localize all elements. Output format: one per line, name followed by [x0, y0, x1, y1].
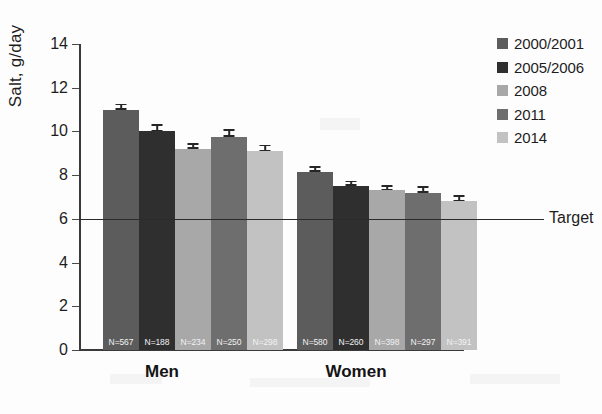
- y-axis-title: Salt, g/day: [6, 0, 32, 146]
- legend-label: 2005/2006: [514, 59, 584, 76]
- legend-swatch-icon: [497, 132, 508, 143]
- y-tick-label-4: 4: [32, 255, 68, 271]
- error-bar-cap: [310, 170, 321, 172]
- y-tick-label-12: 12: [32, 80, 68, 96]
- legend: 2000/20012005/2006200820112014: [497, 32, 584, 150]
- error-bar-cap: [188, 147, 199, 149]
- legend-label: 2011: [514, 106, 546, 123]
- y-tick-label-0: 0: [32, 342, 68, 358]
- bar-group-men: N=567N=188N=234N=250N=298: [103, 44, 283, 350]
- error-bar-cap: [116, 104, 127, 106]
- bar-women-2008[interactable]: N=398: [369, 190, 405, 350]
- error-bar-cap: [418, 191, 429, 193]
- bar-fill: [175, 149, 211, 350]
- category-label-women: Women: [296, 362, 416, 382]
- error-bar-cap: [382, 185, 393, 187]
- error-bar-cap: [188, 143, 199, 145]
- error-bar-cap: [152, 130, 163, 132]
- legend-label: 2008: [514, 82, 547, 99]
- error-bar-cap: [382, 189, 393, 191]
- error-bar-cap: [346, 184, 357, 186]
- bar-fill: [405, 193, 441, 350]
- legend-swatch-icon: [497, 85, 508, 96]
- legend-item-2008[interactable]: 2008: [497, 79, 584, 103]
- bar-fill: [441, 201, 477, 350]
- bar-fill: [297, 172, 333, 350]
- sample-size-label: N=391: [438, 337, 480, 347]
- error-bar-cap: [152, 124, 163, 126]
- error-bar-cap: [310, 166, 321, 168]
- target-label: Target: [549, 209, 593, 227]
- error-bar-cap: [116, 108, 127, 110]
- y-tick-label-2: 2: [32, 298, 68, 314]
- bar-men-2014[interactable]: N=298: [247, 151, 283, 350]
- error-bar-cap: [346, 181, 357, 183]
- legend-swatch-icon: [497, 109, 508, 120]
- legend-item-2014[interactable]: 2014: [497, 126, 584, 150]
- bar-fill: [333, 186, 369, 350]
- salt-intake-bar-chart: Salt, g/day 14121086420 N=567N=188N=234N…: [0, 0, 602, 414]
- bar-women-2000-2001[interactable]: N=580: [297, 172, 333, 350]
- error-bar-cap: [224, 129, 235, 131]
- bar-fill: [247, 151, 283, 350]
- bar-women-2005-2006[interactable]: N=260: [333, 186, 369, 350]
- legend-item-2011[interactable]: 2011: [497, 103, 584, 127]
- bar-men-2011[interactable]: N=250: [211, 137, 247, 350]
- target-reference-line: [79, 219, 544, 221]
- error-bar-cap: [260, 145, 271, 147]
- bar-women-2014[interactable]: N=391: [441, 201, 477, 350]
- bar-fill: [139, 131, 175, 350]
- bar-fill: [103, 110, 139, 350]
- error-bar-cap: [418, 186, 429, 188]
- legend-swatch-icon: [497, 38, 508, 49]
- error-bar-cap: [454, 195, 465, 197]
- scan-artifact: [470, 374, 560, 384]
- legend-item-2000-2001[interactable]: 2000/2001: [497, 32, 584, 56]
- bar-men-2000-2001[interactable]: N=567: [103, 110, 139, 350]
- y-tick-label-6: 6: [32, 211, 68, 227]
- error-bar-cap: [454, 200, 465, 202]
- error-bar-cap: [260, 150, 271, 152]
- plot-area: N=567N=188N=234N=250N=298N=580N=260N=398…: [81, 44, 464, 350]
- y-tick-label-10: 10: [32, 123, 68, 139]
- y-tick-label-8: 8: [32, 167, 68, 183]
- bar-men-2005-2006[interactable]: N=188: [139, 131, 175, 350]
- legend-swatch-icon: [497, 62, 508, 73]
- bar-fill: [211, 137, 247, 350]
- y-tick-label-14: 14: [32, 36, 68, 52]
- bar-men-2008[interactable]: N=234: [175, 149, 211, 350]
- legend-item-2005-2006[interactable]: 2005/2006: [497, 56, 584, 80]
- bar-fill: [369, 190, 405, 350]
- sample-size-label: N=298: [244, 337, 286, 347]
- legend-label: 2014: [514, 129, 547, 146]
- bar-group-women: N=580N=260N=398N=297N=391: [297, 44, 477, 350]
- error-bar-cap: [224, 135, 235, 137]
- legend-label: 2000/2001: [514, 35, 584, 52]
- category-label-men: Men: [102, 362, 222, 382]
- bar-women-2011[interactable]: N=297: [405, 193, 441, 350]
